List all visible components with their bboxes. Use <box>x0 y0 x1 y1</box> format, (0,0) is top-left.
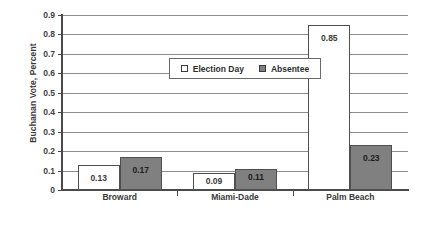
y-axis-tick-mark <box>58 132 63 133</box>
bar-miami-dade-absentee: 0.11 <box>235 169 277 190</box>
y-axis-tick-mark <box>58 112 63 113</box>
y-axis-tick-label: 0.6 <box>43 68 55 78</box>
y-axis-line <box>61 14 63 191</box>
x-axis-label-broward: Broward <box>102 192 136 202</box>
bar-value-label: 0.85 <box>321 33 338 43</box>
x-axis-label-palm-beach: Palm Beach <box>326 192 374 202</box>
y-axis-tick-label: 0.8 <box>43 29 55 39</box>
bar-value-label: 0.09 <box>206 176 223 186</box>
bar-palm-beach-absentee: 0.23 <box>350 145 392 190</box>
y-axis-tick-mark <box>58 93 63 94</box>
y-axis-tick-label: 0.1 <box>43 166 55 176</box>
bar-value-label: 0.17 <box>132 165 149 175</box>
legend-item-absentee: Absentee <box>259 64 309 74</box>
y-axis-title: Buchanan Vote, Percent <box>28 8 38 178</box>
y-axis-tick-label: 0.3 <box>43 127 55 137</box>
y-axis-tick-mark <box>58 15 63 16</box>
legend: Election Day Absentee <box>169 58 321 79</box>
legend-label-absentee: Absentee <box>271 64 309 74</box>
x-axis-label-miami-dade: Miami-Dade <box>211 192 259 202</box>
bar-miami-dade-election-day: 0.09 <box>193 173 235 191</box>
legend-swatch-election-day-icon <box>181 65 188 72</box>
gridline <box>62 54 408 55</box>
y-axis-tick-mark <box>58 190 63 191</box>
y-axis-tick-mark <box>58 54 63 55</box>
y-axis-tick-label: 0.4 <box>43 107 55 117</box>
y-axis-tick-mark <box>58 151 63 152</box>
category-separator-tick <box>177 190 178 196</box>
y-axis-tick-mark <box>58 73 63 74</box>
gridline <box>62 112 408 113</box>
category-separator-tick <box>293 190 294 196</box>
y-axis-tick-label: 0.7 <box>43 49 55 59</box>
bar-palm-beach-election-day: 0.85 <box>308 25 350 190</box>
gridline <box>62 93 408 94</box>
legend-swatch-absentee-icon <box>259 65 266 72</box>
y-axis-tick-mark <box>58 171 63 172</box>
y-axis-tick-mark <box>58 34 63 35</box>
bar-value-label: 0.23 <box>363 153 380 163</box>
gridline <box>62 34 408 35</box>
bar-broward-absentee: 0.17 <box>120 157 162 190</box>
bar-value-label: 0.11 <box>248 172 264 182</box>
legend-label-election-day: Election Day <box>193 64 244 74</box>
gridline <box>62 15 408 16</box>
plot-area: 00.10.20.30.40.50.60.70.80.9 0.130.170.0… <box>62 15 408 190</box>
y-axis-tick-label: 0.2 <box>43 146 55 156</box>
bar-broward-election-day: 0.13 <box>78 165 120 190</box>
y-axis-tick-label: 0.9 <box>43 10 55 20</box>
y-axis-tick-label: 0.5 <box>43 88 55 98</box>
bar-value-label: 0.13 <box>90 173 107 183</box>
y-axis-tick-label: 0 <box>50 185 55 195</box>
legend-item-election-day: Election Day <box>181 64 244 74</box>
gridline <box>62 132 408 133</box>
chart-figure: Buchanan Vote, Percent 00.10.20.30.40.50… <box>0 0 424 225</box>
